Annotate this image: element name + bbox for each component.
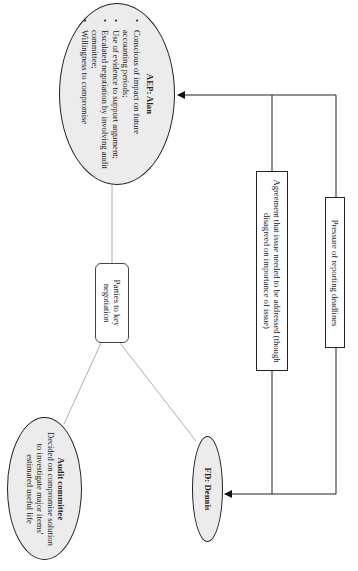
fd-connector xyxy=(120,343,196,441)
aep-title: AEP: Alan xyxy=(145,19,155,169)
pressure-influence-box: Pressure of reporting deadlines xyxy=(325,197,345,348)
aep-bullet: Escalated negotiation by involving audit… xyxy=(89,19,110,169)
audit-committee-node: Audit committee Decided on compromise so… xyxy=(7,417,82,560)
audit-committee-title: Audit committee xyxy=(55,431,65,546)
aep-alan-node: AEP: Alan Conscious of impact on future … xyxy=(59,3,175,185)
agreement-label: Agreement that issue needed to be addres… xyxy=(262,174,283,369)
fd-title: FD: Dennis xyxy=(202,444,212,534)
aep-bullet-list: Conscious of impact on future accounting… xyxy=(79,19,141,169)
negotiation-diagram: AEP: Alan Conscious of impact on future … xyxy=(0,0,358,571)
aep-bullet: Use of evidence to support argument; xyxy=(110,19,120,169)
fd-dennis-node: FD: Dennis xyxy=(192,436,223,542)
central-node-label: Parties to key negotiation xyxy=(102,268,123,338)
aep-bullet: Conscious of impact on future accounting… xyxy=(121,19,142,169)
parties-to-key-negotiation-node: Parties to key negotiation xyxy=(95,263,129,343)
pressure-label: Pressure of reporting deadlines xyxy=(330,200,340,345)
agreement-influence-box: Agreement that issue needed to be addres… xyxy=(256,171,288,371)
aep-bullet: Willingness to compromise xyxy=(79,19,89,169)
audit-committee-text: Decided on compromise solution to invest… xyxy=(24,431,55,546)
audit-connector xyxy=(64,343,101,424)
